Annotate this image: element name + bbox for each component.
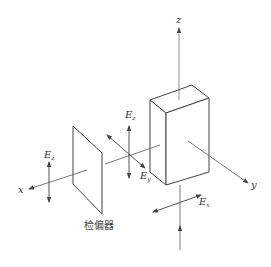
crystal-box bbox=[150, 85, 209, 185]
center-ey-label: Ey bbox=[140, 171, 151, 182]
center-ez-label: Ez bbox=[125, 110, 135, 121]
input-ex-arrow bbox=[153, 195, 201, 212]
y-axis-label: y bbox=[251, 180, 257, 190]
diagram-svg bbox=[0, 0, 271, 267]
analyzer-label: 检偏器 bbox=[84, 221, 114, 231]
x-axis-label: x bbox=[18, 185, 24, 195]
analyzer-plate bbox=[73, 126, 102, 214]
input-ex-label: Ex bbox=[199, 197, 210, 208]
diagram-canvas: z y x Ez Ez Ey Ex 检偏器 bbox=[0, 0, 271, 267]
center-ey-arrow bbox=[107, 135, 145, 168]
z-axis-label: z bbox=[176, 15, 181, 25]
polarizer-ez-label: Ez bbox=[44, 150, 54, 161]
